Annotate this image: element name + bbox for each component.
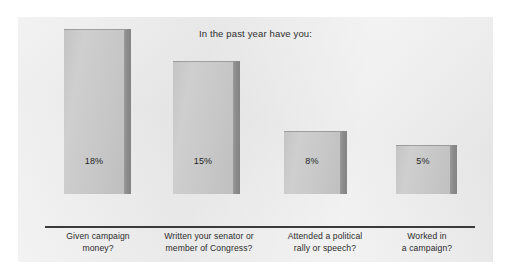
category-label-2-line-0: Attended a political: [270, 231, 380, 243]
category-label-1-line-0: Written your senator or: [148, 231, 270, 243]
axis-baseline: [45, 226, 475, 228]
category-label-2: Attended a political rally or speech?: [270, 231, 380, 254]
bar-value-3: 5%: [396, 156, 450, 166]
bar-side-shadow-2: [340, 131, 347, 194]
bar-side-shadow-0: [124, 29, 131, 194]
bar-face-3: [396, 145, 457, 194]
bar-face-1: [173, 61, 240, 194]
category-label-2-line-1: rally or speech?: [270, 243, 380, 255]
bar-top-edge-3: [396, 145, 457, 146]
category-label-1: Written your senator or member of Congre…: [148, 231, 270, 254]
bar-top-edge-2: [284, 131, 347, 132]
chart-title: In the past year have you:: [18, 28, 493, 39]
category-label-3-line-1: a campaign?: [382, 243, 472, 255]
chart-panel: In the past year have you: 18% 15% 8%: [18, 17, 493, 262]
bar-0: 18%: [64, 29, 131, 194]
bar-value-2: 8%: [284, 156, 340, 166]
category-label-3-line-0: Worked in: [382, 231, 472, 243]
category-label-0: Given campaign money?: [46, 231, 150, 254]
bar-2: 8%: [284, 131, 347, 194]
plot-area: 18% 15% 8% 5% Given ca: [18, 17, 493, 262]
bar-side-shadow-1: [233, 61, 240, 194]
bar-top-edge-1: [173, 61, 240, 62]
category-label-0-line-1: money?: [46, 243, 150, 255]
bar-value-1: 15%: [173, 156, 233, 166]
bar-value-0: 18%: [64, 156, 124, 166]
bar-face-0: [64, 29, 131, 194]
category-label-3: Worked in a campaign?: [382, 231, 472, 254]
bar-side-shadow-3: [450, 145, 457, 194]
category-label-0-line-0: Given campaign: [46, 231, 150, 243]
category-label-1-line-1: member of Congress?: [148, 243, 270, 255]
bar-1: 15%: [173, 61, 240, 194]
bar-3: 5%: [396, 145, 457, 194]
